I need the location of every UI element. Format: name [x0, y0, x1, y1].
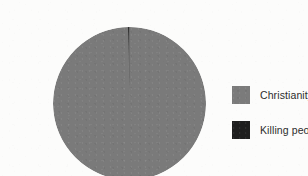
legend-swatch-killing-people — [232, 121, 250, 139]
legend-swatch-christianity — [232, 86, 250, 104]
legend-label-killing-people: Killing people — [260, 124, 308, 136]
pie-slices — [53, 27, 206, 176]
pie-chart-figure: Christianity Killing people — [40, 16, 268, 160]
pie-slice-group — [53, 27, 206, 176]
legend-item-killing-people[interactable]: Killing people — [232, 121, 308, 139]
pie-slices-svg — [53, 27, 206, 176]
legend-label-christianity: Christianity — [260, 89, 308, 101]
chart-legend: Christianity Killing people — [232, 86, 308, 139]
pie-slice-christianity[interactable] — [53, 27, 206, 176]
legend-item-christianity[interactable]: Christianity — [232, 86, 308, 104]
pie-chart-plot-area — [53, 27, 206, 176]
